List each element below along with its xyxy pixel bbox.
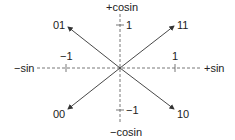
axis-label-plus-sin: +sin [204, 63, 225, 74]
constellation-diagram [0, 0, 235, 140]
arrow-10 [120, 68, 174, 109]
axis-label-minus-cosin: −cosin [110, 127, 142, 138]
tick-label-right: 1 [172, 51, 178, 62]
axis-label-minus-sin: −sin [14, 63, 35, 74]
arrow-01 [68, 27, 120, 68]
arrow-00 [68, 68, 120, 109]
tick-label-bottom: −1 [126, 105, 139, 116]
tick-label-top: 1 [126, 20, 132, 31]
arrow-11 [120, 26, 174, 68]
point-label-11: 11 [177, 20, 188, 31]
tick-label-left: −1 [60, 51, 73, 62]
point-label-01: 01 [53, 20, 65, 31]
point-label-10: 10 [177, 109, 189, 120]
point-label-00: 00 [53, 109, 65, 120]
axis-label-plus-cosin: +cosin [106, 2, 138, 13]
